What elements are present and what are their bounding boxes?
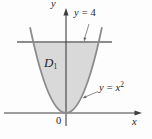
y4-leader-line xyxy=(85,24,89,39)
curve-leader-arrowhead xyxy=(83,95,87,98)
figure-svg xyxy=(0,0,152,139)
region-label-base: D xyxy=(44,55,53,70)
x-axis-label: x xyxy=(132,117,137,128)
figure-canvas: y y=4 D1 y=x2 0 x xyxy=(0,0,152,139)
y-axis-label: y xyxy=(51,0,56,10)
line-equation-label: y=4 xyxy=(74,8,96,19)
region-d1-label: D1 xyxy=(44,56,57,71)
curve-equation-label: y=x2 xyxy=(99,81,124,94)
curve-eq-sign: = xyxy=(107,82,113,93)
x-axis-arrowhead xyxy=(135,110,143,115)
line-eq-sign: = xyxy=(82,7,88,18)
curve-leader-line xyxy=(86,92,98,97)
y-axis-arrowhead xyxy=(63,8,68,16)
origin-label: 0 xyxy=(56,116,61,127)
curve-eq-lhs: y xyxy=(99,82,104,93)
line-eq-rhs: 4 xyxy=(91,7,96,18)
region-label-subscript: 1 xyxy=(53,62,57,71)
y4-leader-arrowhead xyxy=(84,37,87,41)
curve-eq-exponent: 2 xyxy=(120,80,124,89)
line-eq-lhs: y xyxy=(74,7,79,18)
